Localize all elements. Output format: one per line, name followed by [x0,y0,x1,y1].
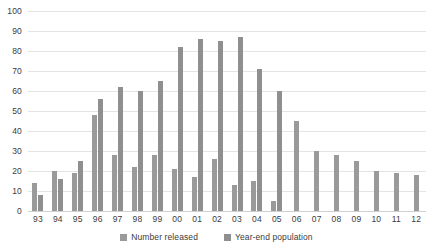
x-axis-tick: 97 [108,212,128,226]
y-axis-tick: 0 [17,207,22,216]
y-axis-tick: 100 [7,7,22,16]
bar [32,183,37,211]
x-axis-tick: 04 [247,212,267,226]
bar-group [68,11,88,211]
bar [78,161,83,211]
chart-legend: Number releasedYear-end population [0,229,433,245]
bar-group [128,11,148,211]
x-axis-tick: 94 [48,212,68,226]
bar [198,39,203,211]
bar [218,41,223,211]
bar-group [287,11,307,211]
legend-label: Year-end population [235,233,313,242]
legend-swatch-icon [224,234,231,241]
bar [52,171,57,211]
x-axis-tick: 12 [406,212,426,226]
bar-group [28,11,48,211]
y-axis-tick: 60 [12,87,22,96]
bar-group [406,11,426,211]
bar [394,173,399,211]
y-axis-tick: 20 [12,167,22,176]
y-axis-tick: 70 [12,67,22,76]
bar [152,155,157,211]
bar [98,99,103,211]
bar [238,37,243,211]
bar [172,169,177,211]
y-axis-tick: 40 [12,127,22,136]
x-axis-tick: 00 [167,212,187,226]
y-axis: 1009080706050403020100 [0,0,26,211]
y-axis-tick: 30 [12,147,22,156]
bar [112,155,117,211]
x-axis-tick: 10 [366,212,386,226]
x-axis-tick: 05 [267,212,287,226]
bar-group [108,11,128,211]
x-axis-tick: 03 [227,212,247,226]
bar [294,121,299,211]
bar [158,81,163,211]
bar [334,155,339,211]
bar-group [147,11,167,211]
bar [251,181,256,211]
bar [271,201,276,211]
bar [178,47,183,211]
legend-label: Number released [131,233,198,242]
bar [72,173,77,211]
bar [38,195,43,211]
bar [92,115,97,211]
bar-group [386,11,406,211]
y-axis-tick: 90 [12,27,22,36]
bar-group [167,11,187,211]
bar [192,177,197,211]
x-axis-tick: 93 [28,212,48,226]
x-axis-tick: 08 [327,212,347,226]
bar-group [307,11,327,211]
x-axis-tick: 11 [386,212,406,226]
bar [277,91,282,211]
bar-group [327,11,347,211]
bar [138,91,143,211]
plot-area [28,11,426,211]
bar-group [347,11,367,211]
bar-group [48,11,68,211]
x-axis-tick: 96 [88,212,108,226]
bar [132,167,137,211]
bar [354,161,359,211]
y-axis-tick: 10 [12,187,22,196]
y-axis-tick: 80 [12,47,22,56]
x-axis-tick: 09 [347,212,367,226]
bar-group [227,11,247,211]
bar-group [187,11,207,211]
x-axis-tick: 99 [147,212,167,226]
x-axis-tick: 02 [207,212,227,226]
bar [58,179,63,211]
x-axis-tick: 06 [287,212,307,226]
x-axis-tick: 01 [187,212,207,226]
bar [257,69,262,211]
bar [414,175,419,211]
bar-group [88,11,108,211]
x-axis-tick: 98 [128,212,148,226]
x-axis-tick: 07 [307,212,327,226]
bar [374,171,379,211]
x-axis-tick: 95 [68,212,88,226]
legend-item[interactable]: Number released [120,233,198,242]
bar [212,159,217,211]
bar-groups [28,11,426,211]
bar-group [247,11,267,211]
bar-group [366,11,386,211]
bar [314,151,319,211]
bar [232,185,237,211]
x-axis: 9394959697989900010203040506070809101112 [28,212,426,226]
bar-chart: 1009080706050403020100 93949596979899000… [0,0,433,249]
bar [118,87,123,211]
y-axis-tick: 50 [12,107,22,116]
bar-group [267,11,287,211]
bar-group [207,11,227,211]
legend-swatch-icon [120,234,127,241]
legend-item[interactable]: Year-end population [224,233,313,242]
